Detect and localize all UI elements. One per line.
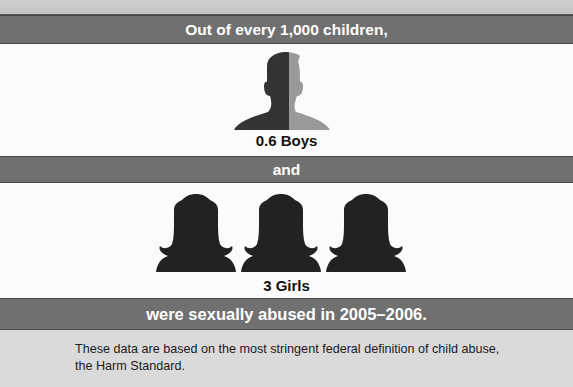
girls-count-label: 3 Girls [0,277,573,294]
header-band: Out of every 1,000 children, [0,15,573,44]
conclusion-text: were sexually abused in 2005–2006. [146,305,427,323]
footnote-text: These data are based on the most stringe… [75,341,515,375]
connector-text: and [273,161,301,178]
boy-silhouette-icon [234,52,330,130]
top-strip [0,0,573,15]
girl-silhouette-icon [326,194,406,272]
header-text: Out of every 1,000 children, [185,21,387,38]
connector-band: and [0,156,573,183]
boys-count-label: 0.6 Boys [0,132,573,149]
girl-silhouette-icon [241,194,321,272]
girl-silhouette-icon [156,194,236,272]
conclusion-band: were sexually abused in 2005–2006. [0,298,573,330]
